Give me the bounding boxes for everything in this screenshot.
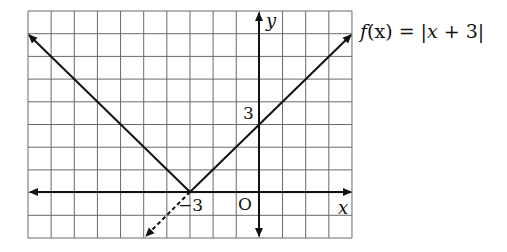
y-axis-label: y [266,12,276,30]
x-intercept-label: −3 [178,197,203,214]
function-label: f(x) = |x + 3| [360,22,484,41]
origin-label: O [238,196,252,213]
y-intercept-label: 3 [243,105,254,122]
x-axis-label: x [338,199,348,217]
